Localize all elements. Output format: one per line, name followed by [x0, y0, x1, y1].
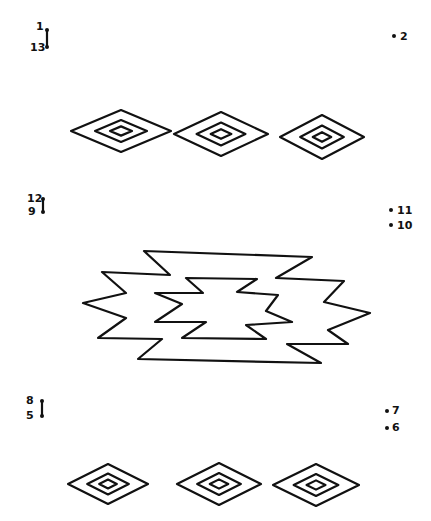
nested-diamond [174, 112, 268, 156]
nested-diamond [71, 110, 171, 152]
dot-label: 7 [392, 405, 400, 416]
dot-label: 11 [397, 205, 412, 216]
zigzag-inner [155, 278, 292, 339]
diamond-middle [197, 123, 246, 146]
nested-diamond [68, 464, 148, 504]
diamond-row-bottom [68, 463, 359, 506]
dot-9[interactable] [41, 210, 45, 214]
dot-13[interactable] [45, 45, 49, 49]
diamond-middle [294, 474, 339, 496]
diamond-inner [211, 129, 232, 139]
diamond-middle [197, 473, 241, 495]
dot-label: 13 [30, 42, 45, 53]
nested-diamond [177, 463, 261, 505]
dot-1[interactable] [45, 28, 49, 32]
diamond-outer [71, 110, 171, 152]
dot-label: 5 [26, 410, 34, 421]
diamond-inner [99, 480, 117, 489]
diamond-inner [110, 126, 132, 135]
dot-6[interactable] [385, 426, 389, 430]
dot-label: 9 [28, 206, 36, 217]
diamond-inner [307, 480, 326, 489]
diamond-middle [300, 126, 344, 149]
diamond-outer [68, 464, 148, 504]
dot-label: 8 [26, 395, 34, 406]
zigzag-outer [83, 251, 370, 363]
nested-diamond [280, 115, 364, 159]
diamond-outer [177, 463, 261, 505]
dot-label: 10 [397, 220, 412, 231]
diamond-inner [313, 132, 331, 142]
nested-diamond [273, 464, 359, 506]
pre-drawn-lines [42, 30, 47, 416]
zigzag-rug-motif [83, 251, 370, 363]
dot-11[interactable] [389, 208, 393, 212]
diamond-outer [273, 464, 359, 506]
diamond-outer [174, 112, 268, 156]
diamond-outer [280, 115, 364, 159]
dot-2[interactable] [392, 34, 396, 38]
drawing-canvas [0, 0, 431, 521]
dot-10[interactable] [389, 223, 393, 227]
dot-label: 6 [392, 422, 400, 433]
dot-8[interactable] [40, 399, 44, 403]
diamond-middle [95, 120, 147, 142]
diamond-row-top [71, 110, 364, 159]
dot-label: 12 [27, 193, 42, 204]
dot-5[interactable] [40, 414, 44, 418]
dot-label: 1 [36, 21, 44, 32]
dot-7[interactable] [385, 409, 389, 413]
diamond-middle [87, 474, 129, 495]
diamond-inner [210, 479, 228, 488]
dot-label: 2 [400, 31, 408, 42]
